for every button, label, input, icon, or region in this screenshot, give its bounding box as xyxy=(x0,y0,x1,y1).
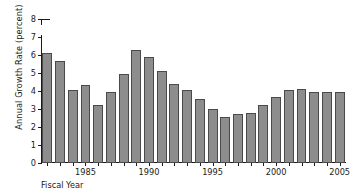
bar xyxy=(220,117,230,163)
bar xyxy=(322,92,332,163)
bar xyxy=(144,57,154,163)
x-axis-title: Fiscal Year xyxy=(41,180,83,190)
bar xyxy=(233,114,243,163)
y-tick-label: 3 xyxy=(31,105,36,113)
y-tick-label: 2 xyxy=(31,123,36,131)
bar xyxy=(68,90,78,163)
bar xyxy=(81,85,91,163)
bar xyxy=(42,53,52,163)
bar xyxy=(195,99,205,163)
bar xyxy=(182,90,192,163)
bar xyxy=(93,105,103,164)
y-tick-label: 5 xyxy=(31,69,36,77)
plot-area: 012345678 19851990199520002005 xyxy=(41,19,346,163)
y-tick xyxy=(38,91,42,92)
y-tick xyxy=(38,19,42,20)
bar xyxy=(169,84,179,163)
y-tick-label: 7 xyxy=(31,33,36,41)
y-tick xyxy=(38,37,42,38)
bar xyxy=(297,89,307,163)
y-tick-label: 1 xyxy=(31,141,36,149)
bar-chart-figure: Annual Growth Rate (percent) 012345678 1… xyxy=(0,0,355,195)
bar xyxy=(309,92,319,163)
x-tick-label: 1985 xyxy=(75,168,96,176)
x-tick-label: 2005 xyxy=(329,168,350,176)
bar xyxy=(157,71,167,163)
bar xyxy=(258,105,268,163)
bar xyxy=(335,92,345,163)
y-tick xyxy=(38,109,42,110)
y-tick-label: 8 xyxy=(31,15,36,23)
bar xyxy=(208,109,218,163)
y-tick xyxy=(38,55,42,56)
bar xyxy=(246,113,256,163)
x-tick-label: 2000 xyxy=(266,168,287,176)
y-tick xyxy=(38,73,42,74)
y-tick xyxy=(38,145,42,146)
x-tick-label: 1995 xyxy=(202,168,223,176)
y-tick-label: 6 xyxy=(31,51,36,59)
y-tick xyxy=(38,163,42,164)
bar xyxy=(119,74,129,163)
x-tick-label: 1990 xyxy=(139,168,160,176)
bar xyxy=(106,92,116,163)
y-axis-title: Annual Growth Rate (percent) xyxy=(14,0,24,142)
y-tick-label: 0 xyxy=(31,159,36,167)
y-tick-label: 4 xyxy=(31,87,36,95)
bar xyxy=(284,90,294,163)
plot-top-cap xyxy=(41,19,50,20)
y-tick xyxy=(38,127,42,128)
bar xyxy=(55,61,65,163)
bar xyxy=(131,50,141,163)
bar xyxy=(271,97,281,163)
